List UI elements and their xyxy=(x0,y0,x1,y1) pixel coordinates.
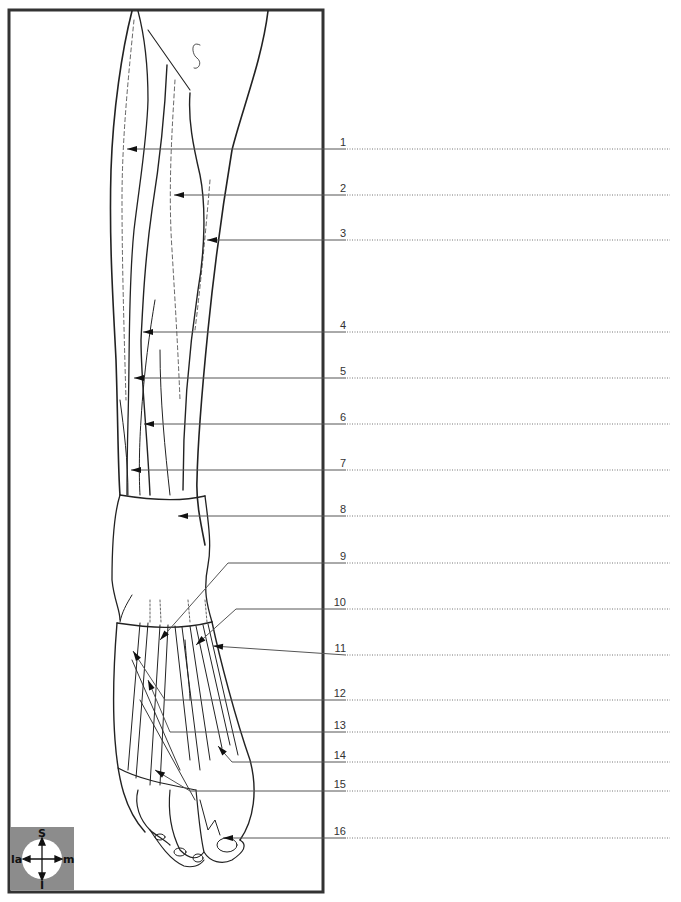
label-number-7: 7 xyxy=(330,458,346,469)
arrowhead-icon xyxy=(148,680,155,690)
arrowhead-icon xyxy=(127,146,137,152)
arrowhead-icon xyxy=(133,651,141,661)
label-number-1: 1 xyxy=(330,137,346,148)
arrowhead-icon xyxy=(143,329,153,335)
label-number-14: 14 xyxy=(330,750,346,761)
leader-line xyxy=(218,746,346,762)
label-number-8: 8 xyxy=(330,504,346,515)
compass-lateral-label: la xyxy=(11,854,22,865)
label-number-6: 6 xyxy=(330,412,346,423)
label-number-2: 2 xyxy=(330,183,346,194)
arrowhead-icon xyxy=(178,513,188,519)
label-number-4: 4 xyxy=(330,320,346,331)
arrowhead-icon xyxy=(131,467,141,473)
arrowhead-icon xyxy=(207,237,217,243)
label-leader-lines xyxy=(127,146,670,841)
compass-medial-label: m xyxy=(63,854,74,865)
leader-line xyxy=(213,646,346,655)
compass-inferior-label: I xyxy=(40,880,44,891)
label-number-9: 9 xyxy=(330,551,346,562)
label-number-15: 15 xyxy=(330,779,346,790)
label-number-13: 13 xyxy=(330,720,346,731)
compass-superior-label: S xyxy=(38,828,46,839)
leg-illustration xyxy=(110,11,268,867)
label-number-5: 5 xyxy=(330,366,346,377)
arrowhead-icon xyxy=(134,375,144,381)
arrowhead-icon xyxy=(223,835,233,841)
label-number-12: 12 xyxy=(330,688,346,699)
leader-line xyxy=(148,680,346,732)
label-number-16: 16 xyxy=(330,826,346,837)
label-number-3: 3 xyxy=(330,228,346,239)
label-number-11: 11 xyxy=(330,643,346,654)
label-number-10: 10 xyxy=(330,597,346,608)
arrowhead-icon xyxy=(174,192,184,198)
